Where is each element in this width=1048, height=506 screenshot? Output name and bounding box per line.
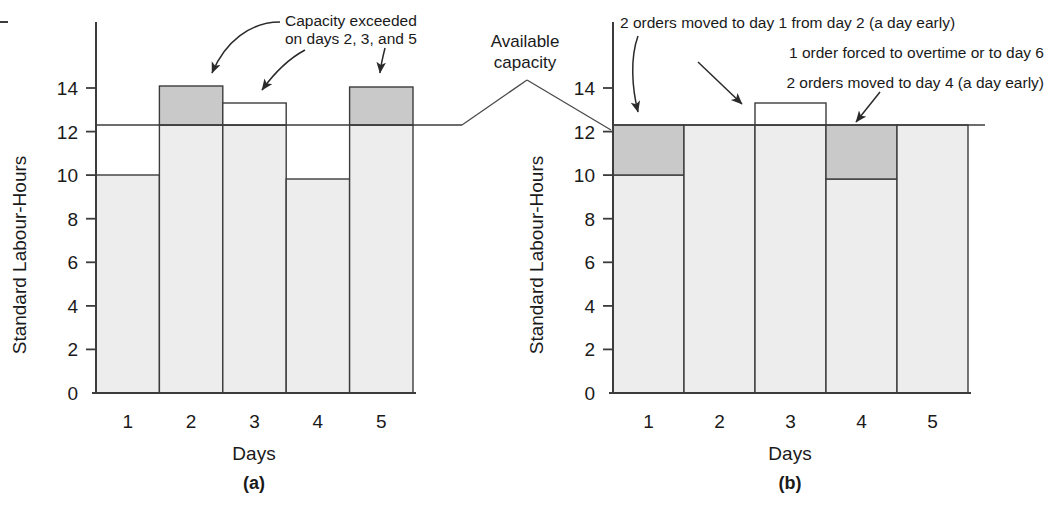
x-tick-labels-b: 1 2 3 4 5 bbox=[643, 411, 938, 432]
arrow-a-to-day5 bbox=[380, 48, 385, 73]
bar-a-day2-under bbox=[159, 125, 222, 393]
panel-b-bars bbox=[613, 103, 968, 393]
panel-a-label: (a) bbox=[243, 473, 265, 493]
panel-b-label: (b) bbox=[779, 473, 802, 493]
figure-container: 14 12 10 8 6 4 2 0 1 2 3 4 5 Standard La… bbox=[0, 0, 1048, 506]
bar-a-day2-over bbox=[159, 86, 222, 125]
y-axis-title-a: Standard Labour-Hours bbox=[9, 156, 30, 355]
y-tick-b-0: 0 bbox=[584, 383, 595, 404]
y-ticks-b bbox=[603, 88, 613, 349]
panel-a-bars bbox=[96, 86, 413, 393]
y-tick-a-4: 4 bbox=[67, 296, 78, 317]
y-tick-b-12: 12 bbox=[574, 122, 595, 143]
bar-a-day3-under bbox=[223, 125, 286, 393]
panel-b: 14 12 10 8 6 4 2 0 1 2 3 4 5 Standard La… bbox=[526, 14, 1044, 493]
bar-b-day3-over bbox=[755, 103, 826, 125]
x-tick-b-3: 3 bbox=[785, 411, 796, 432]
x-axis-title-a: Days bbox=[232, 443, 275, 464]
y-tick-b-4: 4 bbox=[584, 296, 595, 317]
y-tick-a-14: 14 bbox=[57, 78, 79, 99]
bar-b-day2 bbox=[684, 125, 755, 393]
y-tick-b-14: 14 bbox=[574, 78, 596, 99]
y-tick-a-2: 2 bbox=[67, 339, 78, 360]
x-tick-b-1: 1 bbox=[643, 411, 654, 432]
panel-a-annotation-line2: on days 2, 3, and 5 bbox=[285, 30, 417, 47]
capacity-leader-right bbox=[527, 80, 611, 130]
y-tick-a-10: 10 bbox=[57, 165, 78, 186]
charts-svg: 14 12 10 8 6 4 2 0 1 2 3 4 5 Standard La… bbox=[0, 0, 1048, 506]
bar-a-day3-over bbox=[223, 103, 286, 125]
x-tick-labels-a: 1 2 3 4 5 bbox=[122, 411, 386, 432]
y-tick-b-10: 10 bbox=[574, 165, 595, 186]
arrow-a-to-day2 bbox=[212, 22, 280, 73]
panel-b-annotation-line1: 2 orders moved to day 1 from day 2 (a da… bbox=[620, 14, 955, 31]
y-tick-b-8: 8 bbox=[584, 209, 595, 230]
bar-b-day4-under bbox=[826, 179, 897, 393]
y-tick-a-6: 6 bbox=[67, 252, 78, 273]
panel-b-annotation-line3: 2 orders moved to day 4 (a day early) bbox=[786, 74, 1044, 91]
bar-b-day1-under bbox=[613, 175, 684, 393]
bar-a-day4 bbox=[286, 179, 349, 393]
panel-b-annotation-line2: 1 order forced to overtime or to day 6 bbox=[789, 44, 1044, 61]
capacity-callout-line2: capacity bbox=[494, 53, 557, 72]
capacity-leader-left bbox=[462, 80, 527, 125]
y-axis-title-b: Standard Labour-Hours bbox=[526, 156, 547, 355]
y-tick-labels-a: 14 12 10 8 6 4 2 0 bbox=[57, 78, 79, 404]
panel-a: 14 12 10 8 6 4 2 0 1 2 3 4 5 Standard La… bbox=[9, 12, 462, 493]
panel-a-annotation-line1: Capacity exceeded bbox=[285, 12, 417, 29]
x-tick-b-5: 5 bbox=[927, 411, 938, 432]
capacity-callout-line1: Available bbox=[491, 32, 560, 51]
y-tick-a-0: 0 bbox=[67, 383, 78, 404]
bar-a-day1 bbox=[96, 175, 159, 393]
y-tick-a-12: 12 bbox=[57, 122, 78, 143]
x-tick-a-3: 3 bbox=[249, 411, 260, 432]
y-tick-b-6: 6 bbox=[584, 252, 595, 273]
bar-b-day1-added bbox=[613, 125, 684, 175]
x-tick-a-5: 5 bbox=[376, 411, 387, 432]
y-tick-a-8: 8 bbox=[67, 209, 78, 230]
bar-b-day4-added bbox=[826, 125, 897, 179]
arrow-b-to-day3 bbox=[698, 62, 742, 104]
x-axis-title-b: Days bbox=[768, 443, 811, 464]
bar-b-day3-under bbox=[755, 125, 826, 393]
bar-b-day5 bbox=[897, 125, 968, 393]
bar-a-day5-over bbox=[350, 87, 413, 125]
x-tick-a-1: 1 bbox=[122, 411, 133, 432]
y-tick-labels-b: 14 12 10 8 6 4 2 0 bbox=[574, 78, 596, 404]
y-tick-b-2: 2 bbox=[584, 339, 595, 360]
x-tick-b-2: 2 bbox=[714, 411, 725, 432]
y-ticks-a bbox=[86, 88, 96, 349]
x-tick-b-4: 4 bbox=[856, 411, 867, 432]
arrow-b-to-day4 bbox=[856, 92, 880, 122]
arrow-b-to-day1 bbox=[633, 36, 638, 112]
x-tick-a-2: 2 bbox=[186, 411, 197, 432]
x-tick-a-4: 4 bbox=[313, 411, 324, 432]
bar-a-day5-under bbox=[350, 125, 413, 393]
arrow-a-to-day3 bbox=[262, 50, 305, 90]
